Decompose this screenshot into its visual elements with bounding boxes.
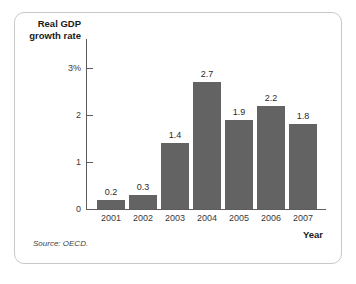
bar-value-2006: 2.2 [249, 94, 293, 103]
bar-value-2007: 1.8 [281, 112, 325, 121]
bar-group-2006: 2.2 [257, 39, 285, 209]
x-axis-line [86, 209, 326, 210]
bar-value-2003: 1.4 [153, 131, 197, 140]
bar-2004 [193, 82, 221, 209]
bar-2007 [289, 124, 317, 209]
y-axis-title-line2: growth rate [15, 30, 81, 42]
bar-group-2004: 2.7 [193, 39, 221, 209]
bar-group-2003: 1.4 [161, 39, 189, 209]
x-tick-label-2007: 2007 [281, 213, 325, 223]
y-axis-title: Real GDP growth rate [15, 18, 81, 42]
bar-value-2005: 1.9 [217, 108, 261, 117]
bar-2001 [97, 200, 125, 209]
bar-value-2004: 2.7 [185, 70, 229, 79]
y-tick-label-2: 2 [76, 111, 81, 120]
bar-2003 [161, 143, 189, 209]
bar-group-2002: 0.3 [129, 39, 157, 209]
y-tick-mark-1 [86, 162, 93, 163]
y-tick-label-0: 0 [76, 205, 81, 214]
x-axis-title: Year [265, 229, 323, 240]
chart-figure-frame: Real GDP growth rate 0 1 2 3% 0.2 0.3 1.… [14, 12, 342, 264]
bar-group-2005: 1.9 [225, 39, 253, 209]
source-note: Source: OECD. [33, 239, 88, 248]
bar-2005 [225, 120, 253, 209]
y-axis-title-line1: Real GDP [15, 18, 81, 30]
bar-2002 [129, 195, 157, 209]
y-tick-label-3: 3% [68, 64, 81, 73]
bar-chart-plot: Real GDP growth rate 0 1 2 3% 0.2 0.3 1.… [15, 13, 342, 264]
y-tick-mark-2 [86, 115, 93, 116]
y-tick-mark-3 [86, 68, 93, 69]
bar-value-2002: 0.3 [121, 183, 165, 192]
y-tick-mark-0 [86, 209, 93, 210]
bar-group-2007: 1.8 [289, 39, 317, 209]
y-tick-label-1: 1 [76, 158, 81, 167]
y-axis-line [86, 39, 87, 210]
